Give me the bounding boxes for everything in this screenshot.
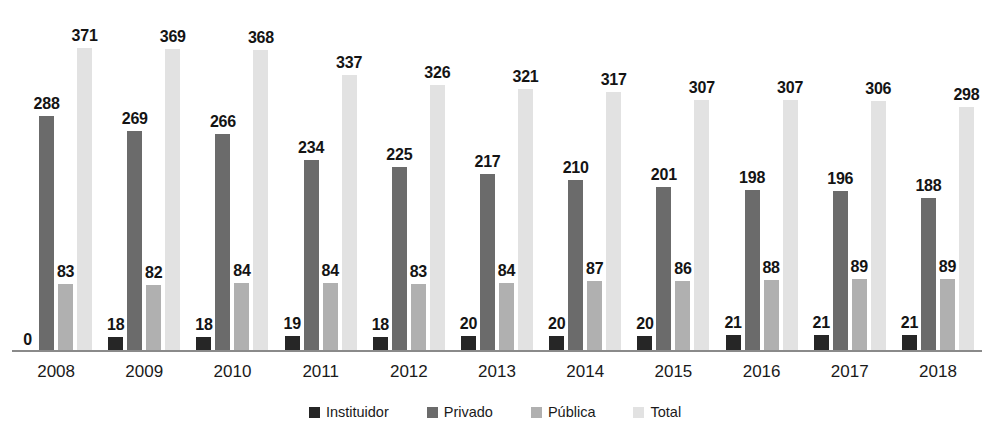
bar-value-label: 198 xyxy=(739,169,765,187)
bar-value-label: 89 xyxy=(939,258,956,276)
bar-slot: 21 xyxy=(902,0,917,352)
x-tick-label: 2016 xyxy=(718,356,806,388)
bar-total-2016[interactable] xyxy=(783,100,798,352)
legend-item-total[interactable]: Total xyxy=(633,404,681,420)
bar-slot: 83 xyxy=(411,0,426,352)
bar-pblica-2016[interactable] xyxy=(764,280,779,352)
x-tick-label: 2014 xyxy=(541,356,629,388)
legend-label: Instituidor xyxy=(326,404,389,420)
bar-group: 1826684368 xyxy=(188,0,276,352)
bar-pblica-2015[interactable] xyxy=(675,281,690,352)
bar-slot: 225 xyxy=(392,0,407,352)
bar-group: 2021087317 xyxy=(541,0,629,352)
bar-total-2015[interactable] xyxy=(694,100,709,352)
bar-value-label: 21 xyxy=(901,314,918,332)
bar-total-2013[interactable] xyxy=(518,89,533,352)
bar-group: 2119689306 xyxy=(806,0,894,352)
bar-slot: 84 xyxy=(234,0,249,352)
x-tick-label: 2015 xyxy=(629,356,717,388)
bar-value-label: 201 xyxy=(651,166,677,184)
bar-slot: 0 xyxy=(20,0,35,352)
bar-pblica-2018[interactable] xyxy=(940,279,955,352)
legend-swatch-icon xyxy=(633,407,644,418)
bar-value-label: 210 xyxy=(563,159,589,177)
bar-privado-2010[interactable] xyxy=(215,134,230,352)
bar-slot: 307 xyxy=(783,0,798,352)
bar-privado-2011[interactable] xyxy=(304,160,319,352)
bar-value-label: 266 xyxy=(210,113,236,131)
bar-pblica-2008[interactable] xyxy=(58,284,73,352)
bar-group: 2118889298 xyxy=(894,0,982,352)
bar-slot: 337 xyxy=(342,0,357,352)
bar-pblica-2013[interactable] xyxy=(499,283,514,352)
bar-value-label: 307 xyxy=(689,79,715,97)
bar-slot: 18 xyxy=(373,0,388,352)
bar-slot: 288 xyxy=(39,0,54,352)
bar-value-label: 89 xyxy=(851,258,868,276)
bar-pblica-2017[interactable] xyxy=(852,279,867,352)
bar-total-2014[interactable] xyxy=(606,92,621,352)
bar-slot: 84 xyxy=(323,0,338,352)
bar-slot: 198 xyxy=(745,0,760,352)
bar-slot: 369 xyxy=(165,0,180,352)
bar-value-label: 19 xyxy=(283,315,300,333)
bar-value-label: 87 xyxy=(586,260,603,278)
legend-label: Total xyxy=(650,404,681,420)
bar-pblica-2011[interactable] xyxy=(323,283,338,352)
bar-pblica-2014[interactable] xyxy=(587,281,602,352)
bar-groups: 0288833711826982369182668436819234843371… xyxy=(12,0,982,352)
bar-pblica-2010[interactable] xyxy=(234,283,249,352)
bar-value-label: 84 xyxy=(233,262,250,280)
bar-pblica-2012[interactable] xyxy=(411,284,426,352)
bar-total-2017[interactable] xyxy=(871,101,886,352)
bar-value-label: 88 xyxy=(762,259,779,277)
bar-group: 2020186307 xyxy=(629,0,717,352)
bar-group: 2119888307 xyxy=(718,0,806,352)
bar-slot: 371 xyxy=(77,0,92,352)
bar-slot: 326 xyxy=(430,0,445,352)
bar-total-2011[interactable] xyxy=(342,75,357,352)
bar-privado-2009[interactable] xyxy=(127,131,142,352)
bar-slot: 89 xyxy=(852,0,867,352)
bar-privado-2013[interactable] xyxy=(480,174,495,352)
bar-value-label: 234 xyxy=(298,139,324,157)
legend-item-instituidor[interactable]: Instituidor xyxy=(309,404,389,420)
bar-value-label: 21 xyxy=(813,314,830,332)
x-tick-label: 2017 xyxy=(806,356,894,388)
bar-group: 1826982369 xyxy=(100,0,188,352)
bar-value-label: 0 xyxy=(23,331,32,349)
bar-group: 2021784321 xyxy=(453,0,541,352)
bar-privado-2012[interactable] xyxy=(392,167,407,352)
bar-value-label: 20 xyxy=(636,315,653,333)
bar-privado-2017[interactable] xyxy=(833,191,848,352)
legend-item-pblica[interactable]: Pública xyxy=(531,404,596,420)
bar-total-2009[interactable] xyxy=(165,49,180,352)
bar-slot: 87 xyxy=(587,0,602,352)
bar-total-2008[interactable] xyxy=(77,48,92,352)
bar-total-2012[interactable] xyxy=(430,85,445,352)
bar-privado-2015[interactable] xyxy=(656,187,671,352)
legend-item-privado[interactable]: Privado xyxy=(427,404,493,420)
bar-value-label: 83 xyxy=(57,263,74,281)
x-tick-label: 2018 xyxy=(894,356,982,388)
bar-value-label: 298 xyxy=(953,86,979,104)
bar-total-2018[interactable] xyxy=(959,107,974,352)
bar-slot: 19 xyxy=(285,0,300,352)
bar-value-label: 18 xyxy=(195,316,212,334)
bar-pblica-2009[interactable] xyxy=(146,285,161,352)
x-axis-line xyxy=(12,350,982,352)
x-tick-label: 2011 xyxy=(277,356,365,388)
bar-value-label: 317 xyxy=(601,71,627,89)
bar-slot: 196 xyxy=(833,0,848,352)
x-tick-label: 2008 xyxy=(12,356,100,388)
bar-privado-2016[interactable] xyxy=(745,190,760,352)
bar-slot: 201 xyxy=(656,0,671,352)
bar-privado-2014[interactable] xyxy=(568,180,583,352)
bar-chart: 0288833711826982369182668436819234843371… xyxy=(0,0,990,435)
bar-slot: 82 xyxy=(146,0,161,352)
bar-slot: 20 xyxy=(461,0,476,352)
bar-value-label: 82 xyxy=(145,264,162,282)
bar-privado-2018[interactable] xyxy=(921,198,936,352)
bar-total-2010[interactable] xyxy=(253,50,268,352)
bar-privado-2008[interactable] xyxy=(39,116,54,352)
